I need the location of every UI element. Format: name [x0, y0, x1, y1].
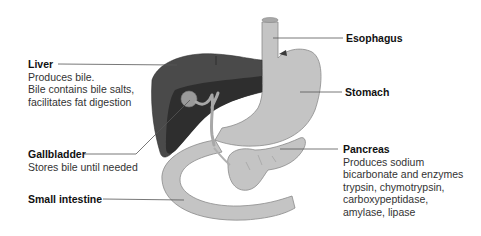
liver-title: Liver [28, 58, 134, 71]
liver-desc-line: Produces bile. [28, 71, 134, 84]
pancreas-desc-line: amylase, lipase [343, 206, 463, 219]
pancreas-desc-line: Produces sodium [343, 156, 463, 169]
gallbladder-desc-line: Stores bile until needed [28, 161, 138, 174]
pancreas-desc-line: trypsin, chymotrypsin, [343, 181, 463, 194]
gallbladder-title: Gallbladder [28, 148, 138, 161]
gallbladder-label: Gallbladder Stores bile until needed [28, 148, 138, 173]
esophagus-title: Esophagus [346, 32, 403, 45]
pancreas-title: Pancreas [343, 143, 463, 156]
small-intestine-label: Small intestine [28, 193, 102, 206]
esophagus-label: Esophagus [346, 32, 403, 45]
gallbladder-shape [181, 91, 197, 107]
stomach-title: Stomach [345, 86, 389, 99]
small-intestine-title: Small intestine [28, 193, 102, 206]
esophagus-opening [262, 18, 278, 23]
stomach-label: Stomach [345, 86, 389, 99]
liver-desc-line: Bile contains bile salts, [28, 83, 134, 96]
pancreas-label: Pancreas Produces sodium bicarbonate and… [343, 143, 463, 218]
liver-desc-line: facilitates fat digestion [28, 96, 134, 109]
liver-label: Liver Produces bile. Bile contains bile … [28, 58, 134, 108]
pancreas-desc-line: carboxypeptidase, [343, 193, 463, 206]
pancreas-desc-line: bicarbonate and enzymes [343, 168, 463, 181]
digestive-diagram: Liver Produces bile. Bile contains bile … [0, 0, 481, 236]
